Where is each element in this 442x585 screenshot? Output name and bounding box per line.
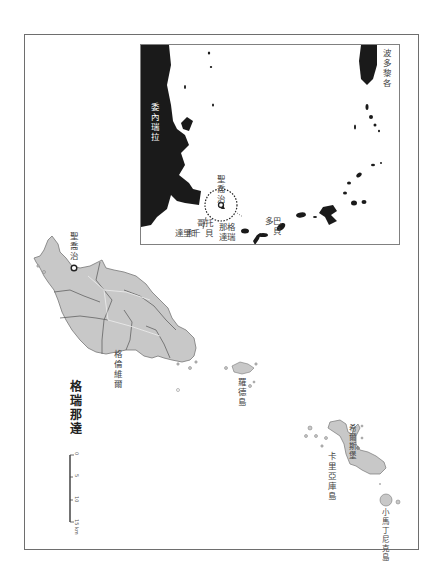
puerto-rico-landmass [359, 45, 377, 85]
inset-st-georges-label: 聖喬治 [215, 175, 224, 205]
puerto-rico-label: 波多黎各 [381, 49, 390, 89]
grenada-island [34, 236, 196, 362]
petite-martinique-label: 小馬丁尼克島 [381, 508, 389, 562]
grenville-label: 格倫維爾 [112, 350, 121, 390]
st-georges-label: 聖喬治 [68, 232, 77, 262]
trinidad-label: 千里達 [173, 229, 199, 244]
venezuela-label: 委內瑞拉 [149, 103, 158, 143]
inset-grenada-label: 格瑞那達 [217, 223, 234, 244]
ronde-island [232, 362, 254, 374]
barbados-label: 巴貝多 [263, 217, 280, 244]
inset-map: 委內瑞拉 波多黎各 聖喬治 格瑞那達 托貝哥 和 千里達 巴貝多 [140, 44, 400, 245]
scale-bar [70, 455, 74, 522]
scale-tick-5: 5 [74, 474, 80, 477]
scale-tick-15: 15 km [74, 519, 80, 535]
capital-marker [71, 265, 77, 271]
scale-tick-10: 10 [74, 496, 80, 502]
barbados-landmass [253, 233, 261, 245]
petite-martinique-island [380, 494, 392, 506]
map-title: 格瑞那達 [68, 380, 80, 436]
hillsborough-label: 希爾斯堡 [348, 424, 356, 460]
ronde-label: 羅德島 [236, 378, 245, 408]
carriacou-label: 卡里亞庫島 [326, 452, 335, 502]
scale-tick-0: 0 [74, 452, 80, 455]
